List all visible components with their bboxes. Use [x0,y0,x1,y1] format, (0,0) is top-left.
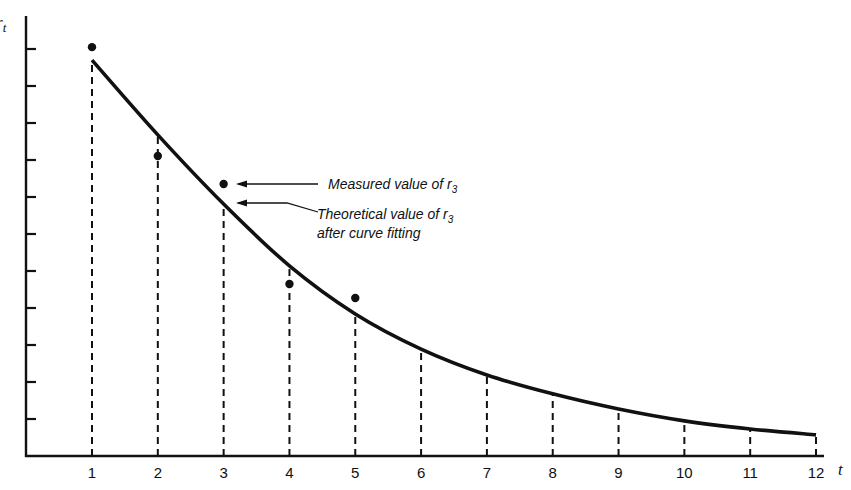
x-tick-label: 11 [742,464,758,481]
measured-point [88,43,96,51]
x-tick-label: 7 [483,464,491,481]
annotation-theoretical: Theoretical value of r3 after curve fitt… [236,200,454,242]
arrow-theoretical-line [238,203,318,212]
x-tick-label: 9 [614,464,622,481]
annot-theoretical-text-line1: Theoretical value of r3 [317,206,454,225]
x-tick-label: 3 [219,464,227,481]
arrow-theoretical-head-icon [236,200,247,207]
x-tick-label: 1 [88,464,96,481]
drop-lines [92,60,816,456]
x-tick-label: 4 [285,464,293,481]
x-axis-label: t [838,460,844,479]
x-tick-label: 8 [549,464,557,481]
x-tick-label: 5 [351,464,359,481]
annot-measured-text: Measured value of r3 [328,176,458,195]
annot-theoretical-text-line2: after curve fitting [317,225,421,241]
x-tick-label: 2 [154,464,162,481]
y-axis-label: rt [0,13,7,35]
fitted-curve [92,60,816,435]
x-tick-label: 10 [676,464,693,481]
axes [25,16,824,457]
measured-point [351,294,359,302]
x-tick-label: 12 [808,464,825,481]
x-tick-label: 6 [417,464,425,481]
x-axis-tick-labels: 123456789101112 [88,464,825,481]
annotation-measured: Measured value of r3 [236,176,458,195]
measured-point [219,180,227,188]
measured-point [154,152,162,160]
y-axis-ticks [26,49,36,419]
chart-canvas: rt 123456789101112 t Measured value of r… [0,0,851,490]
arrow-measured-head-icon [236,181,247,188]
measured-point [285,280,293,288]
